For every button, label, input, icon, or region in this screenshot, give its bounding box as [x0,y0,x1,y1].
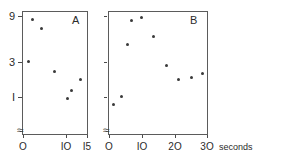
data-point [152,35,155,38]
data-point [140,16,143,19]
panel-a-xtick-10 [66,135,67,138]
panel-b-xlabel-0: O [100,142,118,152]
panel-a-xtick-15 [87,135,88,138]
data-point [40,27,43,30]
panel-b-xaxis-caption: seconds [219,142,253,152]
data-point [53,70,56,73]
panel-b-xtick-10 [142,135,143,138]
data-point [130,19,133,22]
panel-b-data-points [108,11,208,135]
panel-a-xtick-0 [23,135,24,138]
panel-a-ylabel-3: 3 [0,57,15,68]
data-point [66,97,69,100]
scatter-figure: 9 3 I ≈ O IO I5 A ≈ O IO 2O 3O seconds B [0,0,290,165]
panel-b-ytick-3 [104,62,107,63]
data-point [27,60,30,63]
panel-a-xlabel-10: IO [57,142,75,152]
panel-b-xlabel-10: IO [133,142,151,152]
data-point [190,76,193,79]
panel-a-data-points [22,11,88,135]
panel-b-xlabel-30: 3O [198,142,216,152]
data-point [31,18,34,21]
data-point [201,72,204,75]
panel-a-ylabel-1: I [0,92,15,103]
data-point [165,64,168,67]
panel-b-xlabel-20: 2O [166,142,184,152]
panel-a-xlabel-15: I5 [78,142,96,152]
panel-b-xtick-0 [109,135,110,138]
panel-b-xtick-30 [207,135,208,138]
panel-b-ytick-1 [104,97,107,98]
data-point [79,78,82,81]
panel-a-ylabel-9: 9 [0,11,15,22]
panel-b-xtick-20 [175,135,176,138]
data-point [112,103,115,106]
data-point [120,95,123,98]
data-point [177,78,180,81]
panel-b-ytick-9 [104,16,107,17]
data-point [126,43,129,46]
panel-a-xlabel-0: O [14,142,32,152]
data-point [70,89,73,92]
